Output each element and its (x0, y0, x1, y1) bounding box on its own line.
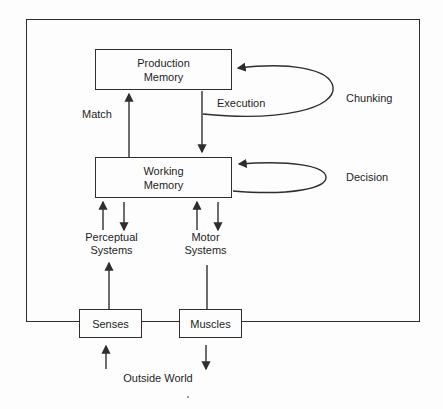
node-working-memory: Working Memory (95, 157, 232, 198)
working-memory-label-line2: Memory (144, 178, 184, 192)
soar-architecture-diagram: Production Memory Working Memory Senses … (0, 0, 443, 409)
edge-label-execution: Execution (217, 97, 265, 110)
node-perceptual-systems: Perceptual Systems (74, 231, 149, 257)
node-senses: Senses (79, 309, 142, 338)
motor-systems-label-line2: Systems (184, 244, 226, 256)
edge-label-decision: Decision (346, 171, 388, 184)
node-muscles: Muscles (179, 309, 242, 338)
muscles-label: Muscles (190, 317, 230, 331)
node-motor-systems: Motor Systems (168, 231, 243, 257)
production-memory-label-line1: Production (137, 56, 190, 70)
edge-label-chunking: Chunking (346, 92, 392, 105)
motor-systems-label-line1: Motor (191, 231, 219, 243)
senses-label: Senses (92, 317, 129, 331)
node-outside-world: Outside World (106, 372, 210, 385)
decision-loop-arrow (233, 163, 326, 193)
perceptual-systems-label-line2: Systems (90, 244, 132, 256)
working-memory-label-line1: Working (143, 164, 183, 178)
edge-label-match: Match (82, 108, 112, 121)
perceptual-systems-label-line1: Perceptual (85, 231, 138, 243)
production-memory-label-line2: Memory (144, 70, 184, 84)
node-production-memory: Production Memory (95, 49, 232, 90)
